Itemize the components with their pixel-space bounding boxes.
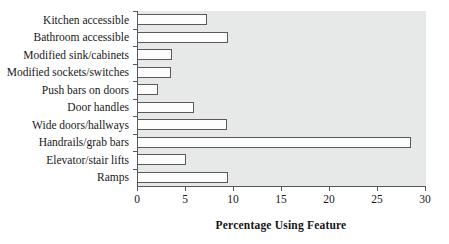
x-axis-title: Percentage Using Feature [137, 219, 425, 231]
y-axis-tick-label: Kitchen accessible [43, 14, 129, 25]
y-axis-tick-label: Elevator/stair lifts [46, 154, 129, 165]
y-axis-tick-label: Ramps [97, 172, 129, 183]
y-axis-tick-mark [133, 46, 137, 47]
y-axis-tick-label: Modified sockets/switches [7, 67, 129, 78]
bar [137, 119, 227, 130]
x-axis-tick-label: 0 [134, 193, 140, 205]
y-axis-tick-label: Wide doors/hallways [32, 119, 129, 130]
x-axis-tick-label: 15 [275, 193, 287, 205]
x-axis-tick-label: 30 [419, 193, 431, 205]
bar [137, 67, 171, 78]
y-axis-tick-mark [133, 169, 137, 170]
y-axis-tick-mark [133, 99, 137, 100]
y-axis-tick-mark [133, 64, 137, 65]
x-axis-tick-mark [329, 186, 330, 191]
y-axis-tick-label: Bathroom accessible [34, 32, 129, 43]
y-axis-tick-label: Modified sink/cabinets [23, 49, 129, 60]
x-axis-tick-label: 20 [323, 193, 335, 205]
x-axis-tick-mark [281, 186, 282, 191]
y-axis-category-labels: Kitchen accessibleBathroom accessibleMod… [0, 11, 133, 186]
x-axis-tick-label: 10 [227, 193, 239, 205]
y-axis-tick-label: Handrails/grab bars [39, 137, 129, 148]
bar [137, 49, 172, 60]
bar-chart: Kitchen accessibleBathroom accessibleMod… [0, 0, 449, 244]
y-axis-tick-mark [133, 116, 137, 117]
x-axis-tick-label: 5 [182, 193, 188, 205]
y-axis-tick-mark [133, 11, 137, 12]
x-axis-tick-mark [185, 186, 186, 191]
bar [137, 102, 194, 113]
y-axis-tick-label: Door handles [67, 102, 129, 113]
bar [137, 32, 228, 43]
bar [137, 154, 186, 165]
bar [137, 137, 411, 148]
bar [137, 14, 207, 25]
x-axis-tick-mark [233, 186, 234, 191]
x-axis-tick-mark [377, 186, 378, 191]
y-axis-tick-label: Push bars on doors [42, 84, 129, 95]
y-axis-tick-mark [133, 29, 137, 30]
bar [137, 84, 158, 95]
y-axis-tick-mark [133, 151, 137, 152]
y-axis-tick-mark [133, 81, 137, 82]
x-axis-tick-label: 25 [371, 193, 383, 205]
y-axis-tick-mark [133, 134, 137, 135]
x-axis-tick-mark [425, 186, 426, 191]
x-axis-tick-mark [137, 186, 138, 191]
bar [137, 172, 228, 183]
